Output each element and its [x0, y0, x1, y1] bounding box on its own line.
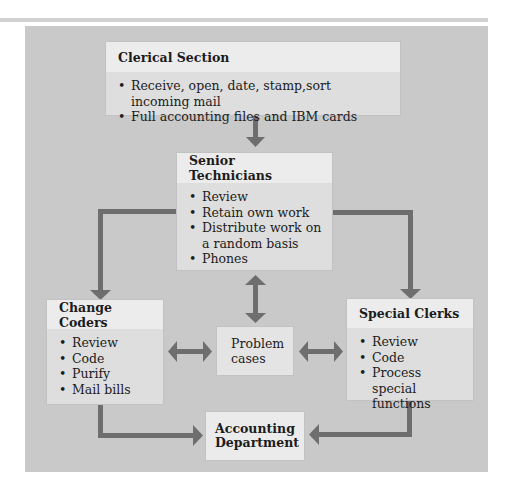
node-problem-cases: Problem cases — [217, 327, 293, 375]
list-item: Retain own work — [189, 205, 324, 221]
node-title: Senior Technicians — [177, 153, 332, 183]
list-item: Code — [359, 350, 465, 366]
node-items: Review Retain own work Distribute work o… — [177, 183, 332, 267]
node-label: Problem cases — [231, 336, 281, 366]
list-item: Review — [59, 335, 155, 351]
list-item: Review — [359, 334, 465, 350]
node-title: Clerical Section — [106, 42, 400, 72]
node-clerical-section: Clerical Section Receive, open, date, st… — [106, 42, 400, 115]
list-item: Review — [189, 189, 324, 205]
node-title: Special Clerks — [347, 299, 473, 328]
node-senior-technicians: Senior Technicians Review Retain own wor… — [177, 153, 332, 270]
list-item: Mail bills — [59, 382, 155, 398]
node-title: Change Coders — [47, 300, 163, 329]
double-arrow-coders-problem — [168, 341, 212, 362]
arrow-senior-to-special-clerks — [332, 210, 421, 299]
node-change-coders: Change Coders Review Code Purify Mail bi… — [47, 300, 163, 404]
double-arrow-problem-clerks — [299, 341, 343, 362]
list-item: Purify — [59, 366, 155, 382]
list-item: Receive, open, date, stamp,sort incoming… — [118, 78, 392, 109]
list-item: Phones — [189, 251, 324, 267]
list-item: Code — [59, 351, 155, 367]
arrow-coders-to-accounting — [98, 404, 203, 446]
arrow-senior-to-change-coders — [90, 209, 178, 300]
node-items: Review Code Purify Mail bills — [47, 329, 163, 397]
node-items: Review Code Process special functions — [347, 328, 473, 412]
double-arrow-senior-problem — [245, 275, 266, 323]
node-label: Accounting Department — [215, 422, 295, 450]
node-items: Receive, open, date, stamp,sort incoming… — [106, 72, 400, 125]
node-special-clerks: Special Clerks Review Code Process speci… — [347, 299, 473, 400]
list-item: Process special functions — [359, 365, 465, 412]
list-item: Full accounting files and IBM cards — [118, 109, 392, 125]
node-accounting-department: Accounting Department — [206, 412, 304, 460]
list-item: Distribute work on a random basis — [189, 220, 324, 251]
